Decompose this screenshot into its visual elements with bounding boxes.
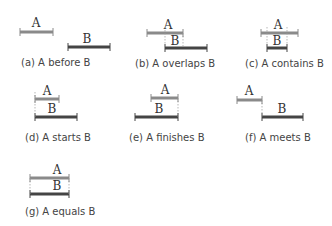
- caption: (f) A meets B: [245, 132, 311, 143]
- caption: (b) A overlaps B: [135, 58, 215, 69]
- panel-finishes: A B (e) A finishes B: [129, 83, 205, 143]
- allen-interval-relations-diagram: A B (a) A before B A B (b) A overlaps B …: [0, 0, 332, 226]
- panel-starts: A B (d) A starts B: [25, 84, 91, 143]
- interval-a-label: A: [163, 18, 173, 32]
- interval-a-label: A: [244, 84, 254, 98]
- caption: (a) A before B: [21, 57, 90, 68]
- interval-b-label: B: [278, 102, 287, 116]
- interval-a-label: A: [160, 83, 170, 97]
- interval-b-label: B: [273, 34, 282, 48]
- interval-b-label: B: [83, 32, 92, 46]
- caption: (g) A equals B: [25, 206, 95, 217]
- panel-contains: A B (c) A contains B: [245, 18, 324, 69]
- panel-before: A B (a) A before B: [20, 16, 110, 68]
- interval-b-label: B: [171, 34, 180, 48]
- caption: (c) A contains B: [245, 58, 324, 69]
- interval-b-label: B: [155, 102, 164, 116]
- interval-a-label: A: [273, 18, 283, 32]
- interval-b-label: B: [53, 179, 62, 193]
- panel-equals: A B (g) A equals B: [25, 163, 95, 217]
- panel-meets: A B (f) A meets B: [237, 84, 311, 143]
- interval-b-label: B: [48, 102, 57, 116]
- interval-a-label: A: [42, 84, 52, 98]
- interval-a-label: A: [31, 16, 41, 30]
- interval-a-label: A: [52, 163, 62, 177]
- caption: (e) A finishes B: [129, 132, 205, 143]
- caption: (d) A starts B: [25, 132, 91, 143]
- panel-overlaps: A B (b) A overlaps B: [135, 18, 215, 69]
